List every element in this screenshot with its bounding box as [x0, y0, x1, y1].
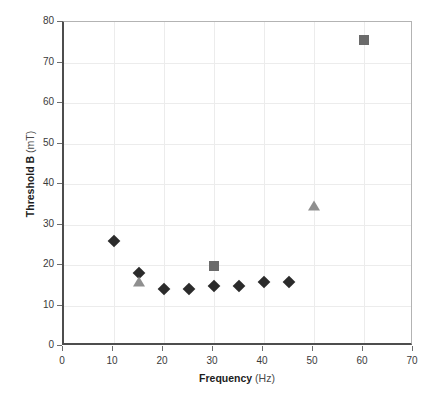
gridline-horizontal: [64, 103, 411, 104]
x-axis-tick-label: 30: [192, 356, 232, 366]
gridline-horizontal: [64, 63, 411, 64]
x-axis-tick-label: 20: [142, 356, 182, 366]
gridline-vertical: [314, 22, 315, 343]
x-axis-title-unit: (Hz): [255, 372, 275, 384]
gridline-horizontal: [64, 225, 411, 226]
x-axis-tick: [162, 346, 163, 351]
y-axis-title-unit: (mT): [24, 131, 36, 153]
data-point-diamond: [208, 280, 221, 293]
x-axis-tick-label: 70: [392, 356, 432, 366]
data-point-diamond: [183, 283, 196, 296]
gridline-horizontal: [64, 306, 411, 307]
x-axis-tick-label: 60: [342, 356, 382, 366]
x-axis-tick: [112, 346, 113, 351]
gridline-vertical: [114, 22, 115, 343]
y-axis-tick: [57, 264, 62, 265]
gridline-horizontal: [64, 184, 411, 185]
y-axis-tick: [57, 305, 62, 306]
gridline-vertical: [214, 22, 215, 343]
y-axis-tick: [57, 102, 62, 103]
plot-area: [62, 21, 412, 345]
data-point-diamond: [108, 234, 121, 247]
x-axis-title-main: Frequency: [199, 372, 252, 384]
x-axis-tick-label: 40: [242, 356, 282, 366]
x-axis-tick: [412, 346, 413, 351]
y-axis-tick: [57, 21, 62, 22]
x-axis-tick-label: 10: [92, 356, 132, 366]
gridline-vertical: [264, 22, 265, 343]
y-axis-tick: [57, 183, 62, 184]
data-point-diamond: [158, 283, 171, 296]
x-axis-tick-label: 50: [292, 356, 332, 366]
y-axis-title: Threshold B (mT): [24, 84, 36, 264]
data-point-diamond: [233, 280, 246, 293]
gridline-vertical: [364, 22, 365, 343]
x-axis-tick: [62, 346, 63, 351]
y-axis-tick-label: 70: [10, 57, 54, 67]
x-axis-tick: [362, 346, 363, 351]
data-point-square: [359, 35, 369, 45]
x-axis-tick: [212, 346, 213, 351]
y-axis-tick-label: 10: [10, 300, 54, 310]
data-point-diamond: [283, 276, 296, 289]
gridline-horizontal: [64, 144, 411, 145]
x-axis-title: Frequency (Hz): [62, 372, 412, 384]
x-axis-tick: [312, 346, 313, 351]
data-point-square: [209, 261, 219, 271]
y-axis-tick: [57, 62, 62, 63]
data-point-triangle: [133, 277, 145, 287]
scatter-plot-figure: 01020304050607080 010203040506070 Freque…: [0, 0, 436, 404]
data-point-triangle: [308, 200, 320, 210]
x-axis-tick-label: 0: [42, 356, 82, 366]
gridline-horizontal: [64, 265, 411, 266]
y-axis-tick: [57, 143, 62, 144]
data-point-diamond: [258, 276, 271, 289]
y-axis-title-main: Threshold B: [24, 156, 36, 217]
x-axis-tick: [262, 346, 263, 351]
y-axis-tick-label: 0: [10, 340, 54, 350]
y-axis-tick: [57, 224, 62, 225]
y-axis-tick-label: 80: [10, 16, 54, 26]
